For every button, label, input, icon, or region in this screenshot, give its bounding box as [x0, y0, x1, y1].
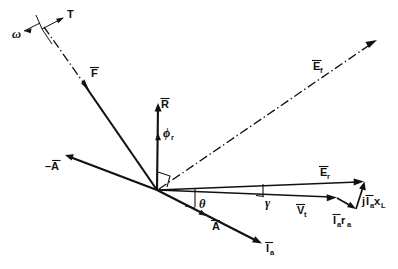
reaction-vector-group: R ϕ r — [155, 98, 174, 190]
force-label-group: F — [90, 67, 99, 79]
Ia-label-group: I a — [265, 242, 275, 257]
neg-A-vector-group: –A — [45, 154, 157, 190]
Vt-vector-shaft — [157, 190, 331, 197]
A-label-group: A — [211, 220, 220, 232]
neg-A-vector-shaft — [70, 157, 157, 190]
emf-f-label-subscript: f — [320, 66, 323, 75]
force-vector-dashed-shaft — [44, 27, 85, 85]
neg-A-arrowhead — [65, 154, 74, 160]
reaction-label-group: R — [161, 98, 170, 110]
Vt-label-group: V t — [296, 204, 307, 219]
phi-r-label: ϕ — [163, 126, 170, 140]
Ia-ra-label-sub2: a — [347, 220, 352, 229]
phi-r-label-subscript: r — [171, 133, 174, 142]
Ia-ra-label-group: I a r a — [333, 214, 353, 229]
emf-f-label-group: E f — [312, 60, 323, 75]
reaction-label: R — [161, 98, 169, 110]
Ia-label-subscript: a — [270, 248, 275, 257]
theta-label: θ — [199, 197, 206, 211]
phasor-diagram-svg: ω T F R ϕ r — [0, 0, 398, 269]
Vt-arrowhead — [327, 194, 337, 201]
jIa-xL-label-I: I — [366, 195, 369, 207]
jIa-xL-label-j: j — [361, 195, 365, 207]
phasor-diagram-canvas: ω T F R ϕ r — [0, 0, 398, 269]
A-Ia-vector-group: A I a — [157, 190, 275, 257]
omega-label: ω — [12, 27, 21, 41]
Ia-ra-arrowhead — [347, 202, 356, 209]
neg-A-label-group: –A — [45, 160, 61, 172]
Ia-ra-label-r: r — [341, 214, 346, 226]
right-angle-mark — [158, 172, 170, 187]
neg-A-label: –A — [45, 160, 59, 172]
A-label: A — [212, 220, 220, 232]
jIa-xL-vector-group: j I a x L — [356, 182, 386, 211]
Vt-label-subscript: t — [304, 210, 307, 219]
phi-r-label-group: ϕ r — [163, 126, 174, 142]
torque-label: T — [67, 8, 74, 20]
Ia-arrowhead — [252, 236, 262, 243]
phi-r-arrowhead — [155, 133, 161, 140]
jIa-xL-label-x: x — [374, 195, 381, 207]
Ia-label: I — [266, 242, 269, 254]
jIa-xL-label-group: j I a x L — [361, 195, 386, 210]
force-vector-group: F — [44, 27, 157, 190]
A-Ia-vector-shaft — [157, 190, 257, 241]
emf-f-vector-shaft — [159, 44, 371, 189]
gamma-label: γ — [265, 196, 271, 210]
emf-r-vector-shaft — [157, 182, 358, 190]
omega-arrow-shaft — [24, 23, 40, 31]
omega-torque-axis-group: ω T — [12, 8, 74, 44]
right-angle-mark-group — [158, 172, 170, 187]
force-vector-shaft — [86, 87, 157, 190]
Ia-ra-label-I: I — [333, 214, 336, 226]
emf-r-label-group: E r — [319, 166, 330, 181]
Ia-ra-vector-group: I a r a — [333, 198, 357, 229]
torque-arrowhead — [56, 17, 64, 23]
axis-stub-upper — [36, 15, 42, 29]
reaction-vector-shaft — [157, 106, 158, 190]
gamma-angle-group: γ — [256, 184, 271, 210]
emf-f-vector-group: E f — [159, 40, 377, 189]
jIa-xL-label-sub2: L — [381, 201, 386, 210]
force-label: F — [91, 67, 98, 79]
emf-r-label-subscript: r — [327, 172, 330, 181]
